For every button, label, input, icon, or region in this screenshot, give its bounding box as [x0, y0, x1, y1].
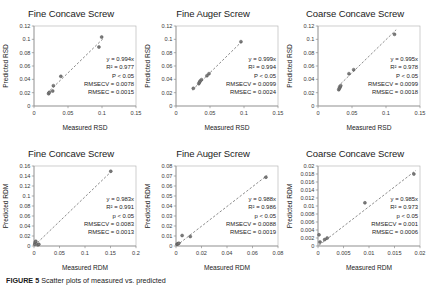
data-point — [51, 90, 54, 93]
x-tick-label: 0.005 — [337, 250, 351, 256]
stat-annotation: P < 0.05 — [112, 73, 135, 79]
x-axis-title: Measured RSD — [346, 124, 391, 131]
y-axis-title: Predicted RDM — [2, 184, 9, 229]
y-tick-label: 0.1 — [23, 36, 31, 42]
scatter-plot-svg: 00.0020.0040.0060.0080.010.0120.0140.016… — [284, 162, 426, 272]
x-tick-label: 0.05 — [347, 110, 358, 116]
y-tick-label: 0.04 — [20, 76, 31, 82]
x-tick-label: 0.2 — [132, 250, 140, 256]
plot-area: 00.020.040.060.080.10.120.140.1600.050.1… — [0, 162, 142, 272]
y-axis-title: Predicted RSD — [144, 44, 151, 88]
stat-annotation: y = 0.983x — [107, 196, 134, 202]
figure-caption-label: FIGURE 5 — [6, 276, 39, 285]
data-point — [192, 87, 195, 90]
x-tick-label: 0.02 — [196, 250, 207, 256]
data-point — [200, 78, 203, 81]
stat-annotation: RMSECV = 0.0099 — [368, 81, 418, 87]
stat-annotation: R² = 0.978 — [390, 64, 418, 70]
stat-annotation: P < 0.05 — [396, 73, 419, 79]
y-tick-label: 0.04 — [304, 76, 315, 82]
plot-area: 00.0020.0040.0060.0080.010.0120.0140.016… — [284, 162, 426, 272]
x-tick-label: 0.1 — [240, 110, 248, 116]
x-tick-label: 0 — [174, 110, 177, 116]
plot-area: 00.010.020.030.040.050.060.070.0800.020.… — [142, 162, 284, 272]
y-tick-label: 0.12 — [20, 23, 31, 29]
y-tick-label: 0.02 — [162, 223, 173, 229]
panel-title: Fine Auger Screw — [142, 148, 284, 159]
y-tick-label: 0.16 — [20, 163, 31, 169]
y-tick-label: 0.12 — [162, 23, 173, 29]
stat-annotation: RMSECV = 0.0083 — [84, 221, 135, 227]
y-tick-label: 0.06 — [162, 183, 173, 189]
data-point — [100, 36, 103, 39]
stat-annotation: RMSEC = 0.0024 — [230, 89, 277, 95]
x-tick-label: 0.05 — [63, 110, 74, 116]
y-tick-label: 0.06 — [20, 63, 31, 69]
panel-fine-concave-screw-rdm: Fine Concave Screw 00.020.040.060.080.10… — [0, 140, 142, 280]
x-tick-label: 0 — [316, 110, 319, 116]
stat-annotation: RMSECV = 0.0099 — [226, 81, 276, 87]
stat-annotation: P < 0.05 — [254, 73, 277, 79]
figure-caption: FIGURE 5 Scatter plots of measured vs. p… — [6, 276, 420, 285]
data-point — [352, 68, 355, 71]
y-tick-label: 0.002 — [300, 235, 314, 241]
panel-coarse-concave-screw-rsd: Coarse Concave Screw 00.020.040.060.080.… — [284, 0, 426, 140]
y-tick-label: 0 — [311, 243, 314, 249]
data-point — [318, 233, 321, 236]
stat-annotation: p < 0.05 — [254, 213, 276, 219]
figure-caption-text: Scatter plots of measured vs. predicted — [41, 276, 166, 285]
x-tick-label: 0 — [316, 250, 319, 256]
data-point — [59, 75, 62, 78]
y-tick-label: 0 — [169, 243, 172, 249]
y-tick-label: 0.012 — [300, 195, 314, 201]
stat-annotation: y = 0.995x — [391, 56, 418, 62]
y-tick-label: 0.04 — [162, 203, 173, 209]
y-tick-label: 0.08 — [162, 50, 173, 56]
data-point — [109, 170, 112, 173]
y-tick-label: 0 — [27, 103, 30, 109]
panel-coarse-concave-screw-rdm: Coarse Concave Screw 00.0020.0040.0060.0… — [284, 140, 426, 280]
stat-annotation: y = 0.994x — [107, 56, 134, 62]
stat-annotation: R² = 0.977 — [106, 64, 134, 70]
stat-annotation: RMSECV = 0.001 — [371, 221, 418, 227]
y-tick-label: 0.018 — [300, 171, 314, 177]
data-point — [48, 91, 51, 94]
data-point — [97, 46, 100, 49]
y-tick-label: 0.02 — [162, 90, 173, 96]
figure-container: Fine Concave Screw 00.020.040.060.080.10… — [0, 0, 426, 286]
data-point — [412, 173, 415, 176]
x-tick-label: 0.05 — [205, 110, 216, 116]
stat-annotation: R² = 0.973 — [390, 204, 418, 210]
stat-annotation: p < 0.05 — [396, 213, 418, 219]
data-point — [319, 241, 322, 244]
stat-annotation: RMSECV = 0.0078 — [84, 81, 135, 87]
panel-title: Fine Concave Screw — [0, 8, 142, 19]
y-tick-label: 0.004 — [300, 227, 314, 233]
panel-title: Fine Concave Screw — [0, 148, 142, 159]
y-tick-label: 0.08 — [304, 50, 315, 56]
y-tick-label: 0.08 — [20, 50, 31, 56]
panel-title: Coarse Concave Screw — [284, 148, 426, 159]
stat-annotation: RMSEC = 0.0013 — [88, 229, 135, 235]
y-axis-title: Predicted RSD — [2, 44, 9, 88]
y-tick-label: 0.06 — [304, 63, 315, 69]
y-tick-label: 0.1 — [23, 193, 31, 199]
y-axis-title: Predicted RSD — [286, 44, 293, 88]
x-tick-label: 0.1 — [81, 250, 89, 256]
x-tick-label: 0.01 — [364, 250, 375, 256]
y-tick-label: 0.01 — [304, 203, 315, 209]
x-tick-label: 0.1 — [98, 110, 106, 116]
stat-annotation: y = 0.999x — [249, 56, 276, 62]
data-point — [239, 40, 242, 43]
y-tick-label: 0.02 — [20, 90, 31, 96]
data-point — [37, 243, 40, 246]
y-tick-label: 0 — [311, 103, 314, 109]
scatter-plot-svg: 00.020.040.060.080.10.1200.050.10.15Meas… — [142, 22, 284, 132]
data-point — [264, 176, 267, 179]
panel-title: Coarse Concave Screw — [284, 8, 426, 19]
x-axis-title: Measured RDM — [204, 264, 250, 271]
y-tick-label: 0.12 — [304, 23, 315, 29]
data-point — [181, 234, 184, 237]
y-tick-label: 0.008 — [300, 211, 314, 217]
y-tick-label: 0.014 — [300, 187, 314, 193]
